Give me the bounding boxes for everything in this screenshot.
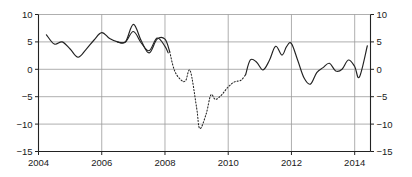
y-right-tick-label: −15 (377, 146, 393, 157)
y-left-tick-label: −5 (22, 91, 33, 102)
x-tick-label: 2012 (281, 157, 302, 168)
y-axis-left-labels: 1050−5−10−15 (16, 9, 32, 157)
y-right-tick-label: 5 (377, 36, 382, 47)
data-series-group (46, 24, 367, 128)
axis-tick-marks (35, 15, 374, 156)
series-line-actual-continued (118, 24, 170, 53)
y-right-tick-label: 10 (377, 9, 388, 20)
y-right-tick-label: 0 (377, 64, 382, 75)
x-tick-label: 2006 (91, 157, 112, 168)
line-chart: 1050−5−10−15 1050−5−10−15 20042006200820… (0, 0, 412, 177)
y-axis-right-labels: 1050−5−10−15 (377, 9, 393, 157)
plot-axes (39, 15, 371, 152)
y-left-tick-label: 5 (27, 36, 32, 47)
x-tick-label: 2004 (28, 157, 49, 168)
y-left-tick-label: 0 (27, 64, 32, 75)
y-right-tick-label: −10 (377, 119, 393, 130)
x-tick-label: 2014 (344, 157, 365, 168)
y-left-tick-label: −15 (16, 146, 32, 157)
x-axis-labels: 200420062008201020122014 (28, 157, 365, 168)
vertical-gridlines (102, 15, 355, 152)
series-line-crisis-estimated (170, 52, 246, 129)
series-line-actual (46, 31, 168, 57)
series-line-recovery (246, 43, 368, 85)
x-tick-label: 2008 (154, 157, 175, 168)
y-right-tick-label: −5 (377, 91, 388, 102)
chart-container: 1050−5−10−15 1050−5−10−15 20042006200820… (0, 0, 412, 177)
y-left-tick-label: −10 (16, 119, 32, 130)
y-left-tick-label: 10 (22, 9, 33, 20)
x-tick-label: 2010 (218, 157, 239, 168)
